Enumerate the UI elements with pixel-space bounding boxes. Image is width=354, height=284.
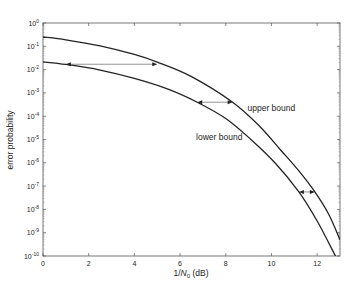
y-tick-label: 10-4: [27, 111, 39, 120]
y-tick-label: 10-8: [27, 204, 39, 213]
y-tick-label: 10-9: [27, 227, 39, 236]
y-tick-label: 10-3: [27, 87, 39, 96]
y-tick-label: 10-2: [27, 64, 39, 73]
y-tick-label: 10-6: [27, 157, 39, 166]
plot-area-border: [43, 23, 340, 256]
upper-bound-label: upper bound: [247, 103, 295, 113]
plot-frame: [43, 23, 340, 256]
lower-bound-label: lower bound: [196, 132, 243, 142]
bound-gap-arrows: [66, 62, 315, 194]
x-tick-label: 12: [313, 260, 321, 267]
data-series: [43, 37, 340, 256]
error-probability-chart: 02468101210010-110-210-310-410-510-610-7…: [0, 0, 354, 284]
x-tick-label: 8: [224, 260, 228, 267]
x-tick-label: 10: [268, 260, 276, 267]
y-tick-label: 10-10: [24, 251, 39, 260]
x-tick-label: 2: [87, 260, 91, 267]
axis-ticks: 02468101210010-110-210-310-410-510-610-7…: [24, 18, 340, 268]
y-tick-label: 10-7: [27, 181, 39, 190]
y-tick-label: 10-5: [27, 134, 39, 143]
y-tick-label: 10-1: [27, 41, 39, 50]
lower-bound-curve: [43, 62, 335, 256]
x-tick-label: 6: [178, 260, 182, 267]
x-tick-label: 0: [41, 260, 45, 267]
x-tick-label: 4: [132, 260, 136, 267]
y-axis-label: error probability: [5, 110, 15, 170]
y-tick-label: 100: [28, 18, 39, 27]
x-axis-label: 1/N0 (dB): [174, 268, 209, 279]
